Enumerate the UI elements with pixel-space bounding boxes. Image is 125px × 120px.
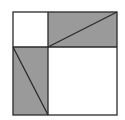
- top-left-white-square: [13, 12, 48, 47]
- geometric-dissection-diagram: [0, 0, 125, 120]
- bottom-right-white-square: [48, 47, 117, 115]
